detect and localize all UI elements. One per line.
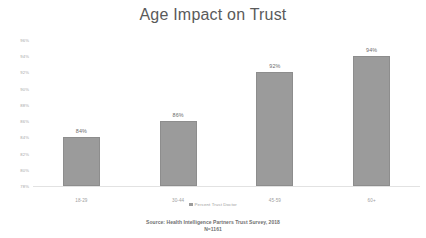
bar-slot: 84%	[33, 40, 130, 186]
bar-value-label: 86%	[173, 112, 184, 118]
source-line-sample-size: N=1161	[0, 226, 426, 233]
slide-canvas: Age Impact on Trust 96%94%92%90%88%86%84…	[0, 0, 426, 238]
y-tick-label: 80%	[20, 167, 29, 172]
x-axis-baseline	[33, 186, 420, 187]
legend-label: Percent Trust Doctor	[195, 202, 237, 207]
y-tick-label: 94%	[20, 54, 29, 59]
source-caption: Source: Health Intelligence Partners Tru…	[0, 219, 426, 233]
chart-title: Age Impact on Trust	[0, 6, 426, 24]
bar-slot: 86%	[130, 40, 227, 186]
bar[interactable]	[63, 137, 100, 186]
bar-value-label: 92%	[269, 63, 280, 69]
legend-swatch-icon	[189, 203, 192, 206]
bar[interactable]	[256, 72, 293, 186]
bar[interactable]	[353, 56, 390, 186]
y-tick-label: 92%	[20, 70, 29, 75]
y-tick-label: 84%	[20, 135, 29, 140]
y-axis-tick-labels: 96%94%92%90%88%86%84%82%80%78%	[0, 40, 33, 186]
chart-legend: Percent Trust Doctor	[0, 202, 426, 207]
y-tick-label: 82%	[20, 151, 29, 156]
bar[interactable]	[160, 121, 197, 186]
y-tick-label: 90%	[20, 86, 29, 91]
bar-slot: 94%	[323, 40, 420, 186]
y-tick-label: 96%	[20, 38, 29, 43]
y-tick-label: 78%	[20, 184, 29, 189]
bar-value-label: 94%	[366, 47, 377, 53]
bar-series-percent-trust-doctor: 84%86%92%94%	[33, 40, 420, 186]
source-line-primary: Source: Health Intelligence Partners Tru…	[0, 219, 426, 226]
y-tick-label: 88%	[20, 102, 29, 107]
y-tick-label: 86%	[20, 119, 29, 124]
bar-slot: 92%	[227, 40, 324, 186]
bar-value-label: 84%	[76, 128, 87, 134]
